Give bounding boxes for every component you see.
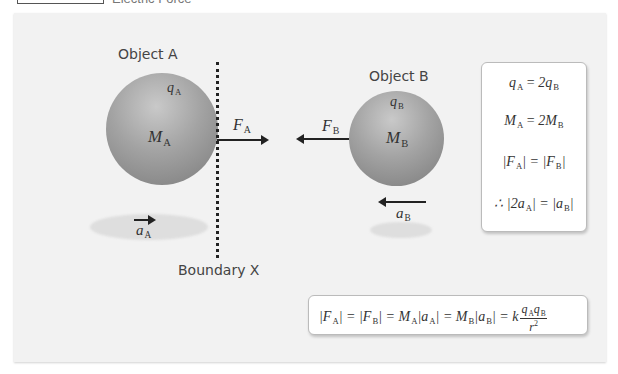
object-a-mass: MA bbox=[148, 127, 171, 148]
object-b-acceleration: aB bbox=[396, 205, 411, 223]
equation-force-equal: |FA| = |FB| bbox=[482, 154, 586, 171]
object-b-mass: MB bbox=[386, 128, 408, 149]
object-b-label: Object B bbox=[369, 68, 429, 84]
coulomb-formula: |FA| = |FB| = MA|aA| = MB|aB| = kqAqBr2 bbox=[319, 303, 547, 333]
force-b-arrow bbox=[298, 138, 349, 140]
equations-box: qA = 2qB MA = 2MB |FA| = |FB| ∴ |2aA| = … bbox=[481, 62, 587, 232]
equation-charge-ratio: qA = 2qB bbox=[482, 75, 586, 92]
object-b-charge: qB bbox=[390, 94, 404, 111]
force-a-arrow bbox=[217, 139, 267, 141]
coulomb-fraction: qAqBr2 bbox=[520, 303, 546, 333]
header-title: Electric Force bbox=[112, 0, 191, 6]
header-box bbox=[17, 0, 104, 4]
force-a-label: FA bbox=[233, 116, 251, 135]
object-b-shadow bbox=[370, 222, 432, 238]
boundary-x-line bbox=[216, 62, 219, 258]
equation-mass-ratio: MA = 2MB bbox=[482, 113, 586, 130]
object-a-label: Object A bbox=[118, 46, 178, 62]
force-b-label: FB bbox=[322, 117, 339, 136]
boundary-x-label: Boundary X bbox=[178, 262, 259, 278]
object-b-acceleration-arrow bbox=[380, 201, 426, 203]
object-a-charge: qA bbox=[167, 80, 181, 97]
coulomb-formula-box: |FA| = |FB| = MA|aA| = MB|aB| = kqAqBr2 bbox=[308, 295, 588, 335]
object-a-acceleration-arrow bbox=[134, 219, 154, 221]
object-a-acceleration: aA bbox=[136, 222, 151, 240]
equation-acceleration-ratio: ∴ |2aA| = |aB| bbox=[482, 195, 586, 213]
